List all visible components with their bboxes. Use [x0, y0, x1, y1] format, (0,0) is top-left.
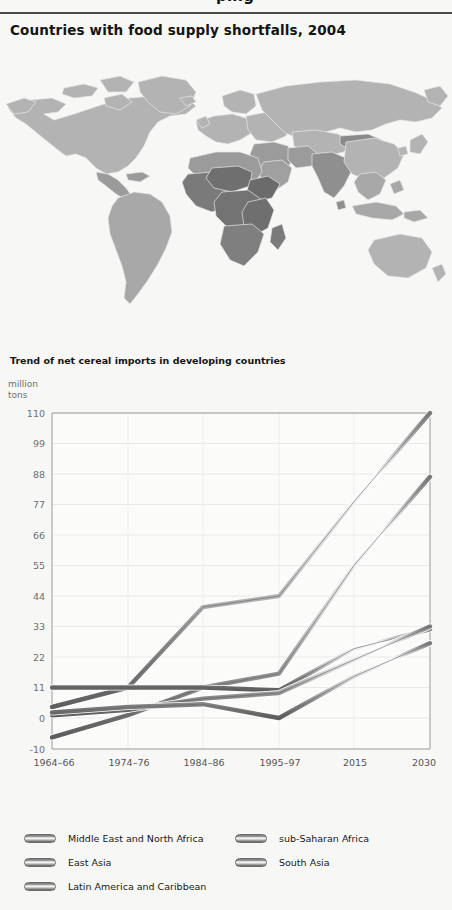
legend-item-sub-saharan-africa[interactable]: sub-Saharan Africa	[235, 826, 369, 850]
y-tick-labels: 110 99 88 77 66 55 44 33 22 11 0 -10	[27, 408, 45, 755]
region-canada-arctic-1	[62, 84, 98, 98]
region-southern-africa	[220, 224, 264, 266]
legend-swatch-icon	[24, 834, 56, 843]
legend-column-left: Middle East and North Africa East Asia L…	[24, 826, 206, 898]
region-png	[404, 210, 428, 222]
svg-text:11: 11	[33, 682, 45, 693]
legend-swatch-icon	[24, 882, 56, 891]
svg-text:44: 44	[33, 591, 45, 602]
line-chart: 110 99 88 77 66 55 44 33 22 11 0 -10 196…	[0, 368, 452, 808]
header-divider	[0, 12, 452, 14]
x-tick-1984-86: 1984–86	[183, 757, 224, 768]
legend-item-middle-east-and-north-africa[interactable]: Middle East and North Africa	[24, 826, 206, 850]
region-russia	[256, 80, 442, 138]
page-title: Countries with food supply shortfalls, 2…	[10, 22, 346, 38]
cropped-heading-band: ping	[0, 0, 452, 12]
region-australia	[368, 234, 432, 278]
legend-column-right: sub-Saharan Africa South Asia	[235, 826, 369, 874]
svg-text:99: 99	[33, 438, 45, 449]
cropped-heading-text: ping	[216, 0, 254, 5]
region-madagascar	[270, 224, 286, 250]
chart-title: Trend of net cereal imports in developin…	[10, 355, 286, 366]
x-tick-2015: 2015	[343, 757, 367, 768]
svg-text:110: 110	[27, 408, 45, 419]
region-japan	[410, 134, 428, 154]
legend-swatch-icon	[235, 834, 267, 843]
legend-label: Latin America and Caribbean	[68, 881, 206, 892]
svg-text:0: 0	[39, 713, 45, 724]
legend-item-east-asia[interactable]: East Asia	[24, 850, 206, 874]
legend-label: Middle East and North Africa	[68, 833, 204, 844]
svg-text:33: 33	[33, 621, 45, 632]
legend-label: sub-Saharan Africa	[279, 833, 369, 844]
infographic-page: ping Countries with food supply shortfal…	[0, 0, 452, 910]
legend-item-south-asia[interactable]: South Asia	[235, 850, 369, 874]
world-map-svg	[0, 62, 452, 342]
legend-label: East Asia	[68, 857, 111, 868]
svg-text:22: 22	[33, 652, 45, 663]
region-philippines	[390, 180, 404, 194]
legend-label: South Asia	[279, 857, 330, 868]
line-chart-svg: 110 99 88 77 66 55 44 33 22 11 0 -10 196…	[0, 368, 452, 808]
x-tick-1964-66: 1964–66	[33, 757, 74, 768]
svg-text:55: 55	[33, 560, 45, 571]
chart-legend: Middle East and North Africa East Asia L…	[0, 826, 452, 900]
x-tick-2030: 2030	[412, 757, 436, 768]
region-scandinavia	[222, 90, 256, 114]
legend-item-latin-america-and-caribbean[interactable]: Latin America and Caribbean	[24, 874, 206, 898]
svg-text:88: 88	[33, 469, 45, 480]
region-south-america	[108, 192, 172, 304]
region-korea	[398, 146, 408, 156]
x-tick-labels: 1964–66 1974–76 1984–86 1995–97 2015 203…	[33, 757, 436, 768]
legend-swatch-icon	[235, 858, 267, 867]
svg-text:77: 77	[33, 499, 45, 510]
region-sri-lanka	[336, 200, 346, 210]
x-tick-1995-97: 1995–97	[259, 757, 300, 768]
legend-swatch-icon	[24, 858, 56, 867]
region-caribbean	[126, 172, 150, 182]
region-southeast-asia	[354, 172, 386, 200]
svg-text:66: 66	[33, 530, 45, 541]
region-canada-arctic-2	[100, 76, 134, 92]
svg-text:-10: -10	[29, 744, 45, 755]
x-tick-1974-76: 1974–76	[108, 757, 149, 768]
world-map	[0, 62, 452, 342]
region-indonesia	[352, 202, 404, 220]
region-new-zealand	[432, 264, 446, 282]
